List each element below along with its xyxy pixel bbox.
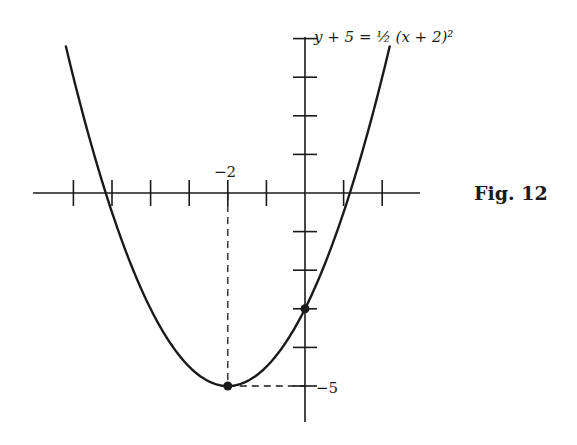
parabola-plot: [0, 0, 577, 445]
y-tick-label: −5: [316, 379, 338, 397]
figure: y + 5 = ½ (x + 2)² Fig. 12 −2 −5: [0, 0, 577, 445]
equation-label: y + 5 = ½ (x + 2)²: [314, 28, 453, 46]
vertex-point: [223, 382, 232, 391]
y-intercept-point: [301, 304, 310, 313]
parabola-curve: [66, 46, 390, 386]
x-tick-label: −2: [214, 163, 236, 181]
figure-caption: Fig. 12: [474, 182, 548, 204]
